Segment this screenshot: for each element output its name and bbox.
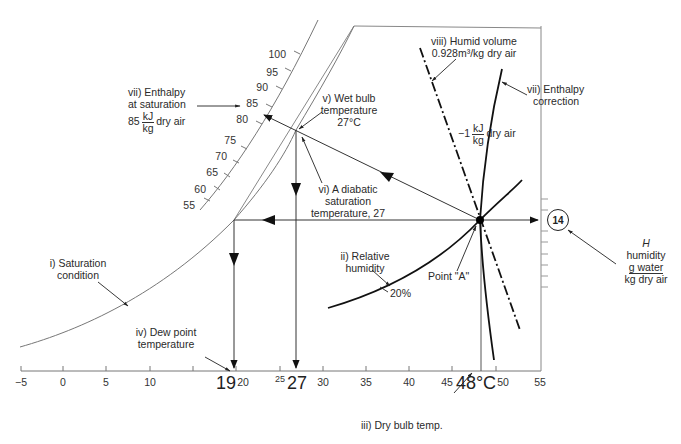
x-tick-0: 0 <box>60 376 66 388</box>
enthalpy-tick-60: 60 <box>182 183 206 195</box>
enthalpy-tick-55: 55 <box>171 199 195 211</box>
x-tick-35: 35 <box>360 376 372 388</box>
humidity-value: 14 <box>552 215 563 226</box>
humidity-word: humidity <box>612 249 680 261</box>
humid-volume-line2: 0.928m³/kg dry air <box>424 47 524 59</box>
adiabatic-label-line3: temperature, 27 <box>303 207 393 219</box>
dew-point-label-line2: temperature <box>128 338 204 350</box>
enthalpy-saturation-line2: at saturation <box>128 98 198 110</box>
arrowhead-down-dew <box>229 253 239 266</box>
adiabatic-saturation-label: vi) A diabatic saturation temperature, 2… <box>303 183 393 219</box>
relative-humidity-value: 20% <box>390 287 411 299</box>
wet-bulb-label-line3: 27°C <box>313 116 385 128</box>
enthalpy-saturation-value: 85 <box>128 115 140 127</box>
humid-volume-line <box>420 48 520 330</box>
humidity-value-circle: 14 <box>547 209 569 231</box>
enthalpy-correction-value: −1kJkgdry air <box>458 123 516 146</box>
humid-volume-line1: viii) Humid volume <box>424 35 524 47</box>
unit-tail: dry air <box>156 115 185 127</box>
enthalpy-correction-curve <box>480 69 502 360</box>
enthalpy-tick-85: 85 <box>234 97 258 109</box>
wet-bulb-label-line1: v) Wet bulb <box>313 92 385 104</box>
enthalpy-tick-90: 90 <box>244 81 268 93</box>
saturation-label-line2: condition <box>38 269 118 281</box>
x-tick-5: 5 <box>103 376 109 388</box>
enthalpy-correction-line2: correction <box>527 95 597 107</box>
x-tick-55: 55 <box>534 376 546 388</box>
relative-humidity-label-line2: humidity <box>330 262 400 274</box>
enthalpy-tick-75: 75 <box>212 134 236 146</box>
unit-tail: dry air <box>486 127 515 139</box>
unit-denominator: kg <box>142 123 153 134</box>
relative-humidity-label: ii) Relative humidity <box>330 250 400 274</box>
wet-bulb-label-line2: temperature <box>313 104 385 116</box>
x-tick-10: 10 <box>144 376 156 388</box>
relative-humidity-label-line1: ii) Relative <box>330 250 400 262</box>
enthalpy-tick-100: 100 <box>262 48 286 60</box>
enthalpy-saturation-value-row: 85kJkgdry air <box>128 111 198 134</box>
enthalpy-correction-label: vii) Enthalpy correction <box>527 83 597 107</box>
arrowhead-down-wet <box>291 183 301 196</box>
humidity-symbol: H <box>612 237 680 249</box>
enthalpy-saturation-unit: kJkg <box>142 111 155 134</box>
humidity-axis-label: H humidity g water kg dry air <box>612 237 680 285</box>
x-tick-minus5: −5 <box>15 376 27 388</box>
x-tick-30: 30 <box>317 376 329 388</box>
x-tick-40: 40 <box>403 376 415 388</box>
x-axis <box>21 366 541 371</box>
wet-bulb-value: 27 <box>287 373 307 394</box>
point-a-label: Point "A" <box>428 270 469 282</box>
dry-bulb-label: iii) Dry bulb temp. <box>361 419 443 431</box>
adiabatic-label-line1: vi) A diabatic <box>303 183 393 195</box>
enthalpy-saturation-line1: vii) Enthalpy <box>128 86 198 98</box>
enthalpy-correction-number: −1 <box>458 127 470 139</box>
enthalpy-tick-80: 80 <box>224 113 248 125</box>
enthalpy-tick-65: 65 <box>194 166 218 178</box>
saturation-label-line1: i) Saturation <box>38 257 118 269</box>
humidity-unit-denominator: kg dry air <box>612 273 680 285</box>
humidity-axis-ticks <box>541 199 548 287</box>
enthalpy-tick-70: 70 <box>203 150 227 162</box>
enthalpy-scale-curve <box>200 20 318 210</box>
saturation-label: i) Saturation condition <box>38 257 118 281</box>
dew-point-value: 19 <box>216 373 236 394</box>
unit-denominator: kg <box>473 135 484 146</box>
enthalpy-correction-unit: kJkg <box>472 123 485 146</box>
enthalpy-saturation-label: vii) Enthalpy at saturation 85kJkgdry ai… <box>128 86 198 134</box>
arrowhead-left <box>262 215 275 225</box>
x-tick-20: 20 <box>237 376 249 388</box>
x-tick-50: 50 <box>497 376 509 388</box>
dry-bulb-value: 48°C <box>456 373 496 394</box>
x-tick-45: 45 <box>441 376 453 388</box>
dew-point-label-line1: iv) Dew point <box>128 326 204 338</box>
enthalpy-correction-line1: vii) Enthalpy <box>527 83 597 95</box>
dew-point-label: iv) Dew point temperature <box>128 326 204 350</box>
wet-bulb-label: v) Wet bulb temperature 27°C <box>313 92 385 128</box>
point-a-marker <box>476 216 484 224</box>
adiabatic-label-line2: saturation <box>303 195 393 207</box>
enthalpy-tick-95: 95 <box>254 66 278 78</box>
humid-volume-label: viii) Humid volume 0.928m³/kg dry air <box>424 35 524 59</box>
x-tick-25: 25 <box>275 374 285 384</box>
